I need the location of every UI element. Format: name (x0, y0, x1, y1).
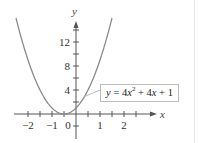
x-tick-label: −2 (22, 119, 34, 131)
x-axis-arrow-icon (150, 112, 157, 117)
parabola-chart: −2−10124812 x y (0, 0, 199, 143)
ticks (28, 30, 136, 126)
x-tick-label: 1 (97, 119, 103, 131)
eq-mid: + 4 (135, 87, 151, 98)
eq-suffix: + 1 (156, 87, 172, 98)
x-tick-label: −1 (46, 119, 58, 131)
x-tick-label: 0 (65, 119, 71, 131)
panel-divider (194, 0, 195, 143)
y-tick-label: 12 (59, 36, 70, 48)
y-axis-arrow-icon (74, 21, 79, 28)
y-axis-label: y (71, 5, 77, 17)
y-tick-label: 8 (65, 60, 71, 72)
y-tick-label: 4 (65, 84, 71, 96)
eq-prefix: = 4 (111, 87, 127, 98)
x-tick-label: 2 (121, 119, 127, 131)
equation-label-box: y = 4x2 + 4x + 1 (100, 84, 179, 102)
x-axis-label: x (159, 108, 165, 120)
